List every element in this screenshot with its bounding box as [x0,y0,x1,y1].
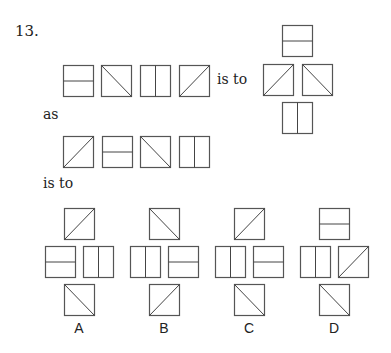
first-sequence-tile-1 [63,65,94,97]
option-d-bottom-tile [319,284,350,316]
option-label-a[interactable]: A [64,320,94,336]
option-label-b[interactable]: B [149,320,179,336]
second-sequence-tile-3 [140,136,171,168]
option-label-c[interactable]: C [234,320,264,336]
option-d-left-tile [300,246,331,278]
tile-line-diag-down [320,285,350,316]
tile-line-diag-up [339,247,369,278]
second-sequence-tile-1 [63,136,94,168]
option-a-bottom-tile [64,284,95,316]
second-sequence-tile-2 [102,136,133,168]
tile-line-diag-up [264,65,294,96]
question-number: 13. [15,22,39,40]
first-result-left-tile [263,64,294,96]
tile-line-diag-up [180,66,210,97]
as-label: as [43,106,59,122]
option-b-bottom-tile [149,284,180,316]
option-label-d[interactable]: D [319,320,349,336]
second-sequence-tile-4 [179,136,210,168]
first-result-bottom-tile [282,102,313,134]
tile-line-diag-down [235,285,265,316]
first-result-top-tile [282,25,313,57]
option-a-left-tile [45,246,76,278]
first-sequence-tile-4 [179,65,210,97]
tile-line-diag-down [150,209,180,240]
tile-line-diag-up [64,137,94,168]
first-sequence-tile-3 [140,65,171,97]
is-to-label-1: is to [217,71,247,87]
option-c-bottom-tile [234,284,265,316]
option-b-left-tile [130,246,161,278]
tile-line-diag-down [141,137,171,168]
tile-line-diag-down [303,65,333,96]
tile-line-diag-down [65,285,95,316]
option-b-right-tile [168,246,199,278]
is-to-label-2: is to [43,175,73,191]
first-result-right-tile [302,64,333,96]
option-c-left-tile [215,246,246,278]
option-c-right-tile [253,246,284,278]
tile-line-diag-up [65,209,95,240]
option-a-top-tile [64,208,95,240]
option-d-top-tile [319,208,350,240]
option-d-right-tile [338,246,369,278]
tile-line-diag-up [235,209,265,240]
option-a-right-tile [83,246,114,278]
tile-line-diag-up [150,285,180,316]
option-b-top-tile [149,208,180,240]
first-sequence-tile-2 [101,65,132,97]
tile-line-diag-down [102,66,132,97]
option-c-top-tile [234,208,265,240]
